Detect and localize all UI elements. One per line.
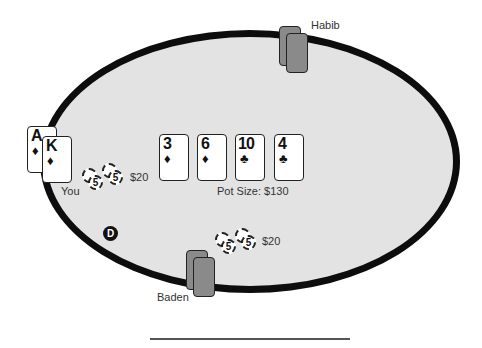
- chip-icon: 5: [88, 175, 103, 190]
- club-icon: ♣: [279, 152, 288, 165]
- card-rank: A: [31, 128, 43, 144]
- dealer-button: D: [103, 226, 118, 241]
- card-rank: 3: [163, 136, 172, 152]
- board-card-3: 10 ♣: [235, 134, 265, 181]
- diamond-icon: ♦: [202, 152, 209, 165]
- chip-icon: 5: [108, 170, 123, 185]
- diamond-icon: ♦: [47, 154, 54, 167]
- board-card-1: 3 ♦: [159, 134, 189, 181]
- habib-name: Habib: [311, 19, 340, 31]
- board-card-4: 4 ♣: [274, 134, 304, 181]
- card-rank: K: [46, 138, 58, 154]
- club-icon: ♣: [240, 152, 249, 165]
- chip-icon: 5: [221, 239, 236, 254]
- board-card-2: 6 ♦: [197, 134, 227, 181]
- you-name: You: [61, 185, 80, 197]
- baden-bet-amount: $20: [262, 235, 280, 247]
- you-hole-card-2: K ♦: [42, 136, 72, 183]
- chip-icon: 5: [241, 235, 256, 250]
- you-bet-amount: $20: [130, 171, 148, 183]
- baden-name: Baden: [157, 291, 189, 303]
- baden-card-back-2: [193, 257, 215, 297]
- divider-line: [150, 338, 350, 340]
- pot-size: Pot Size: $130: [217, 185, 289, 197]
- card-rank: 10: [238, 136, 254, 152]
- habib-card-back-2: [286, 33, 308, 73]
- card-rank: 4: [278, 136, 287, 152]
- card-rank: 6: [201, 136, 210, 152]
- diamond-icon: ♦: [32, 144, 39, 157]
- diamond-icon: ♦: [164, 152, 171, 165]
